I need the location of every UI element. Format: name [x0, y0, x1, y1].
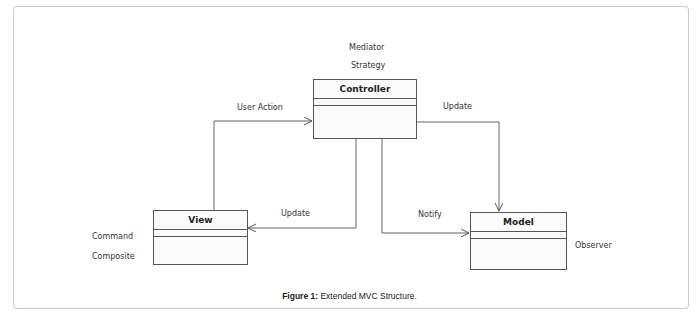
class-name-controller: Controller [314, 80, 416, 99]
class-attributes-controller [314, 99, 416, 106]
class-attributes-model [471, 232, 566, 239]
pattern-label-observer: Observer [575, 241, 612, 251]
edge-update-model [416, 122, 499, 211]
class-name-view: View [154, 211, 247, 230]
pattern-label-mediator: Mediator [349, 43, 384, 53]
edge-label-update-model: Update [443, 102, 472, 112]
pattern-label-composite: Composite [92, 252, 135, 262]
figure-caption: Figure 1: Extended MVC Structure. [0, 291, 699, 301]
pattern-label-strategy: Strategy [351, 61, 385, 71]
edge-user-action [214, 121, 312, 210]
class-name-model: Model [471, 213, 566, 232]
class-box-controller: Controller [313, 79, 417, 139]
caption-label: Figure 1: [282, 291, 318, 301]
class-box-model: Model [470, 212, 567, 270]
edge-label-user-action: User Action [237, 103, 283, 113]
pattern-label-command: Command [92, 232, 133, 242]
class-attributes-view [154, 230, 247, 237]
edge-label-update-view: Update [281, 209, 310, 219]
caption-text: Extended MVC Structure. [318, 291, 417, 301]
edge-label-notify: Notify [418, 210, 442, 220]
class-box-view: View [153, 210, 248, 265]
